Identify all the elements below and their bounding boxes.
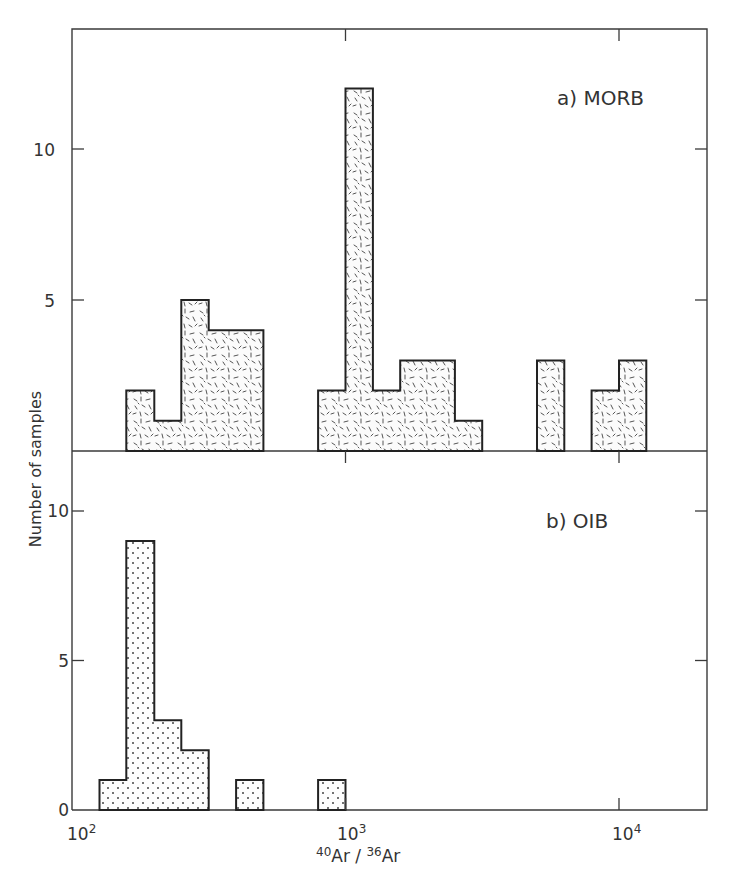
panel-a-label: a) MORB (557, 86, 644, 110)
x-label-sup-40: 40 (316, 845, 331, 859)
x-tick-base: 10 (67, 824, 89, 844)
y-tick-label-b-10: 10 (47, 501, 69, 521)
histogram-figure: a) MORB b) OIB 5 10 0 5 10 Number of sam… (0, 0, 741, 881)
morb-bar-group (537, 360, 564, 451)
x-tick-label-100: 102 (67, 822, 96, 844)
morb-bar-group (318, 89, 482, 451)
x-label-ar: Ar (382, 846, 401, 866)
x-label-slash: / (350, 846, 367, 866)
y-axis-label: Number of samples (26, 391, 45, 547)
x-label-sup-36: 36 (366, 845, 381, 859)
x-tick-label-1000: 103 (337, 822, 366, 844)
y-tick-label-a-5: 5 (44, 291, 55, 311)
x-tick-base: 10 (612, 824, 634, 844)
morb-bar-group (126, 300, 263, 451)
x-tick-exp: 2 (89, 822, 97, 836)
x-label-ar: Ar (331, 846, 350, 866)
x-tick-exp: 3 (359, 822, 367, 836)
y-tick-label-b-0: 0 (58, 800, 69, 820)
oib-bar-group (236, 780, 263, 810)
morb-bar-group (592, 360, 647, 451)
x-tick-base: 10 (337, 824, 359, 844)
histogram-bars (100, 89, 647, 810)
x-axis-label: 40Ar / 36Ar (316, 845, 400, 866)
x-tick-label-10000: 104 (612, 822, 641, 844)
y-tick-label-a-10: 10 (33, 140, 55, 160)
x-tick-exp: 4 (634, 822, 642, 836)
panel-b-label: b) OIB (546, 509, 608, 533)
oib-bar-group (100, 541, 209, 810)
oib-bar-group (318, 780, 345, 810)
y-tick-label-b-5: 5 (58, 651, 69, 671)
